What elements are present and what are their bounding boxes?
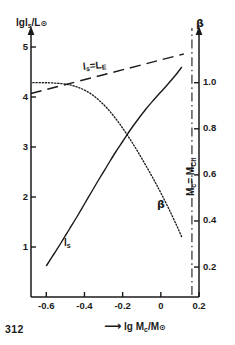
right-axis-title: β bbox=[196, 18, 204, 29]
sun-symbol-icon: ⊙ bbox=[40, 19, 47, 28]
axis-lines bbox=[28, 26, 203, 297]
curve-eddington-limit bbox=[31, 54, 184, 94]
curve-label-beta: β bbox=[157, 199, 165, 210]
chandrasekhar-mass-label: Mc= MCh bbox=[186, 157, 197, 196]
axis-ticks bbox=[31, 47, 199, 297]
eddington-sub2: E bbox=[101, 63, 106, 70]
chandra-sub1: c bbox=[190, 184, 197, 188]
right-tick-label-1: 0.4 bbox=[203, 215, 216, 225]
eddington-limit-label: ls=LE bbox=[82, 60, 106, 73]
right-tick-label-3: 0.8 bbox=[203, 123, 216, 133]
left-axis-title-lg: lg bbox=[16, 17, 25, 28]
curve-label-ls: ls bbox=[64, 238, 71, 249]
plot-area bbox=[0, 0, 235, 345]
curve-beta bbox=[33, 83, 182, 237]
left-tick-label-2: 3 bbox=[18, 142, 28, 152]
left-tick-label-0: 1 bbox=[18, 242, 28, 252]
chandra-sub2: Ch bbox=[190, 157, 197, 166]
bottom-axis-title-slash: /M bbox=[148, 321, 159, 332]
chandra-m1: M bbox=[185, 188, 196, 196]
chandra-eq: = M bbox=[185, 167, 196, 184]
bottom-tick-label-4: 0.2 bbox=[188, 301, 210, 311]
bottom-axis-title-lg: lg M bbox=[124, 321, 144, 332]
left-tick-label-1: 2 bbox=[18, 192, 28, 202]
sun-symbol-icon-2: ⊙ bbox=[159, 323, 166, 332]
right-tick-label-0: 0.2 bbox=[203, 262, 216, 272]
left-tick-label-3: 4 bbox=[18, 92, 28, 102]
bottom-tick-label-2: -0.2 bbox=[112, 301, 134, 311]
right-tick-label-2: 0.6 bbox=[203, 169, 216, 179]
right-arrow-icon: ⟶ bbox=[104, 319, 121, 333]
bottom-axis-title: ⟶ lg Mc/M⊙ bbox=[104, 320, 166, 333]
data-curves bbox=[31, 28, 192, 295]
left-tick-label-4: 5 bbox=[18, 42, 28, 52]
left-axis-title: lgls/L⊙ bbox=[16, 18, 47, 29]
bottom-tick-label-1: -0.4 bbox=[73, 301, 95, 311]
bottom-tick-label-3: 0 bbox=[150, 301, 172, 311]
right-tick-label-4: 1.0 bbox=[203, 77, 216, 87]
bottom-tick-label-0: -0.6 bbox=[35, 301, 57, 311]
eddington-eq: =L bbox=[89, 59, 102, 71]
curve-ls-sub: s bbox=[67, 242, 71, 249]
figure: lgls/L⊙ β ⟶ lg Mc/M⊙ ls=LE ls β Mc= MCh … bbox=[0, 0, 235, 345]
page-number: 312 bbox=[5, 324, 24, 335]
